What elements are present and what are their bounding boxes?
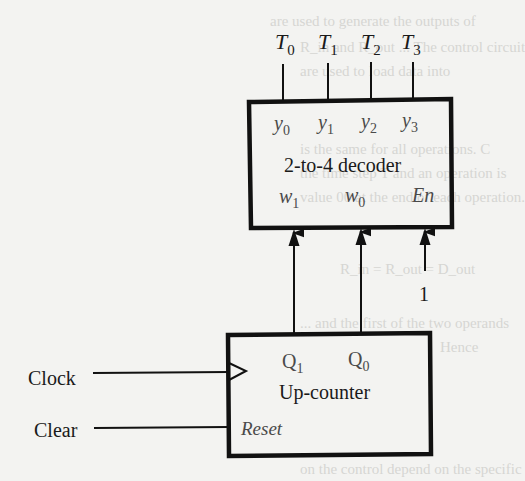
decoder-label: 2-to-4 decoder: [284, 154, 402, 176]
clock-input-label: Clock: [28, 367, 76, 389]
decoder-output-wires: [283, 62, 413, 102]
clock-triangle-icon: [229, 363, 246, 380]
pin-y2: y2: [359, 110, 377, 136]
pin-q0: Q0: [348, 348, 369, 374]
output-label-t0: T0: [275, 29, 295, 58]
arrowhead-up-icon: [420, 228, 431, 245]
wire-clock: [93, 372, 229, 373]
pin-y0: y0: [272, 112, 290, 138]
external-inputs: Clock Clear: [28, 367, 229, 441]
arrowheads: [289, 228, 431, 246]
pin-w1: w1: [279, 185, 299, 211]
pin-y1: y1: [316, 111, 334, 137]
counter-label: Up-counter: [279, 381, 370, 404]
output-label-t1: T1: [318, 29, 338, 58]
counter-block: Q1 Q0 Up-counter Reset: [228, 333, 431, 456]
pin-y3: y3: [400, 109, 418, 135]
pin-en: En: [411, 184, 434, 206]
output-label-t2: T2: [361, 29, 381, 58]
clear-input-label: Clear: [34, 419, 78, 441]
wire-clear: [94, 427, 229, 428]
decoder-block: y0 y1 y2 y3 2-to-4 decoder w1 w0 En: [249, 99, 452, 228]
pin-w0: w0: [345, 184, 365, 210]
decoder-output-labels: T0 T1 T2 T3: [275, 29, 421, 58]
output-label-t3: T3: [401, 29, 421, 58]
arrowhead-up-icon: [289, 229, 300, 246]
arrowhead-up-icon: [356, 228, 367, 245]
pin-q1: Q1: [282, 350, 303, 376]
counter-to-decoder-wires: [294, 232, 425, 334]
enable-constant-label: 1: [419, 283, 429, 305]
pin-reset: Reset: [240, 418, 283, 439]
